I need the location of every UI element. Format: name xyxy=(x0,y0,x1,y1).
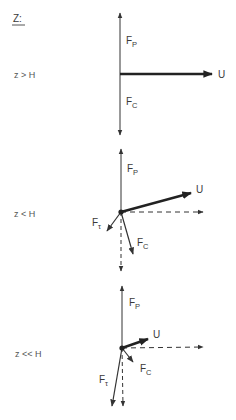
u-label: U xyxy=(218,69,225,80)
origin-point xyxy=(119,345,124,350)
svg-text:Fτ: Fτ xyxy=(92,217,101,231)
panel-z-much-less-than-h: z << H FP FC Fτ U xyxy=(15,286,203,406)
horizontal-dashed-arrow xyxy=(122,347,203,348)
svg-text:FP: FP xyxy=(127,163,138,177)
condition-label: z > H xyxy=(14,70,35,80)
z-heading: Z: xyxy=(13,13,22,24)
force-vector-diagram: Z: z > H FP FC U z < H FP FC Fτ U z << H xyxy=(0,0,236,420)
fp-subscript: P xyxy=(133,168,138,177)
svg-text:FP: FP xyxy=(126,35,137,49)
ftau-arrow xyxy=(107,212,121,231)
u-label: U xyxy=(196,184,203,195)
fc-subscript: C xyxy=(132,101,138,110)
svg-text:FP: FP xyxy=(129,297,140,311)
origin-point xyxy=(118,209,123,214)
fp-subscript: P xyxy=(132,40,137,49)
svg-text:FC: FC xyxy=(137,237,149,251)
header-label: Z: xyxy=(12,13,25,25)
fc-arrow xyxy=(122,348,133,362)
fc-subscript: C xyxy=(143,242,149,251)
fp-subscript: P xyxy=(135,302,140,311)
svg-text:Fτ: Fτ xyxy=(99,374,108,388)
panel-z-greater-than-h: z > H FP FC U xyxy=(14,13,225,135)
u-label: U xyxy=(153,329,160,340)
u-arrow xyxy=(121,193,191,212)
vertical-dashed-arrow xyxy=(122,348,123,406)
panel-z-less-than-h: z < H FP FC Fτ U xyxy=(14,149,203,271)
condition-label: z < H xyxy=(14,209,35,219)
ftau-arrow xyxy=(112,348,122,406)
fc-arrow xyxy=(121,212,133,254)
svg-text:FC: FC xyxy=(126,96,138,110)
condition-label: z << H xyxy=(15,349,42,359)
ftau-subscript: τ xyxy=(105,379,108,388)
ftau-subscript: τ xyxy=(98,222,101,231)
u-arrow xyxy=(122,339,148,348)
fc-subscript: C xyxy=(146,368,152,377)
svg-text:FC: FC xyxy=(140,363,152,377)
